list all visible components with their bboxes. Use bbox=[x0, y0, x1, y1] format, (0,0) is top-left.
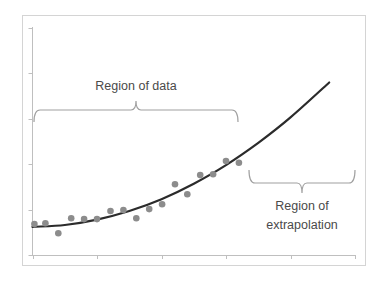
data-point bbox=[210, 171, 217, 178]
data-point bbox=[133, 215, 140, 222]
data-point bbox=[120, 207, 127, 214]
data-point bbox=[223, 158, 230, 165]
data-point bbox=[159, 201, 166, 208]
region-of-data-brace bbox=[34, 101, 238, 122]
data-point bbox=[236, 160, 243, 167]
data-point bbox=[107, 208, 114, 215]
data-point bbox=[81, 216, 88, 223]
data-point bbox=[55, 230, 62, 237]
data-point bbox=[31, 221, 38, 228]
region-of-extrapolation-label-line1: Region of bbox=[275, 199, 329, 213]
region-of-data-label: Region of data bbox=[95, 79, 176, 93]
data-point bbox=[172, 181, 179, 188]
data-point bbox=[184, 191, 191, 198]
data-point bbox=[68, 215, 75, 222]
data-point bbox=[197, 172, 204, 179]
data-point bbox=[146, 206, 153, 213]
data-point bbox=[94, 216, 101, 223]
y-ticks bbox=[29, 29, 33, 256]
chart: Region of data Region of extrapolation bbox=[0, 0, 385, 283]
data-point bbox=[42, 220, 49, 227]
region-of-extrapolation-brace bbox=[249, 170, 355, 193]
region-of-extrapolation-label-line2: extrapolation bbox=[266, 218, 338, 232]
